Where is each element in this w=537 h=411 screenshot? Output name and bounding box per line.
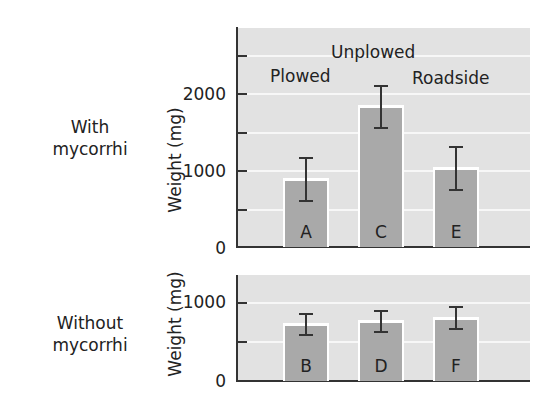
bar-label: D [361, 356, 401, 376]
error-bar [305, 157, 307, 201]
bar-label: E [436, 222, 476, 242]
category-label-roadside: Roadside [412, 68, 490, 88]
y-tick-label: 2000 [166, 84, 226, 104]
y-axis [236, 275, 238, 382]
error-cap [299, 313, 313, 315]
error-bar [380, 310, 382, 332]
y-axis-label: Weight (mg) [165, 269, 185, 379]
gridline [238, 302, 530, 304]
error-cap [449, 328, 463, 330]
error-cap [449, 146, 463, 148]
error-cap [374, 127, 388, 129]
y-tick [237, 170, 247, 172]
category-label-unplowed: Unplowed [331, 42, 415, 62]
category-label-plowed: Plowed [270, 66, 331, 86]
y-axis-label: Weight (mg) [165, 105, 185, 215]
gridline [238, 93, 530, 95]
error-cap [374, 331, 388, 333]
y-tick [237, 341, 247, 343]
y-tick-label: 0 [166, 238, 226, 258]
row-label-line: Without [25, 312, 155, 334]
y-tick [237, 93, 247, 95]
y-tick [237, 209, 247, 211]
bar-label: F [436, 356, 476, 376]
error-cap [299, 334, 313, 336]
y-tick-label: 0 [166, 371, 226, 391]
error-cap [299, 157, 313, 159]
error-cap [374, 310, 388, 312]
error-cap [299, 200, 313, 202]
y-tick [237, 302, 247, 304]
bar-label: A [286, 222, 326, 242]
y-tick [237, 132, 247, 134]
error-cap [374, 85, 388, 87]
error-cap [449, 189, 463, 191]
y-tick [237, 55, 247, 57]
error-bar [305, 313, 307, 335]
error-bar [455, 306, 457, 329]
row-label-with-mycorrhizae: With mycorrhi [25, 116, 155, 160]
bar-label: C [361, 222, 401, 242]
row-label-line: mycorrhi [25, 138, 155, 160]
row-label-without-mycorrhizae: Without mycorrhi [25, 312, 155, 356]
y-axis [236, 27, 238, 248]
row-label-line: With [25, 116, 155, 138]
bar-label: B [286, 356, 326, 376]
error-cap [449, 306, 463, 308]
row-label-line: mycorrhi [25, 334, 155, 356]
y-tick-label: 1000 [166, 292, 226, 312]
error-bar [455, 146, 457, 190]
y-tick-label: 1000 [166, 161, 226, 181]
error-bar [380, 85, 382, 128]
